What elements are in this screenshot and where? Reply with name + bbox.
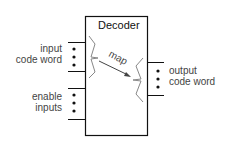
map-label: map [107,48,130,67]
input-brace [89,36,98,78]
enable-label-1: enable [32,91,62,102]
output-dot [156,69,159,72]
input-dot [72,63,75,66]
output-dot [156,85,159,88]
map-arrow-head [124,72,131,77]
enable-label-2: inputs [35,102,62,113]
decoder-diagram: Decoder input code word enable inputs ou… [0,0,239,149]
decoder-title: Decoder [98,19,140,31]
enable-dot [72,101,75,104]
output-label-2: code word [169,76,215,87]
output-brace [133,58,143,102]
input-dot [72,47,75,50]
output-label-1: output [169,65,197,76]
input-label-1: input [40,43,62,54]
decoder-box [86,17,148,136]
enable-dot [72,93,75,96]
output-dot [156,77,159,80]
enable-dot [72,109,75,112]
input-label-2: code word [16,54,62,65]
input-dot [72,55,75,58]
